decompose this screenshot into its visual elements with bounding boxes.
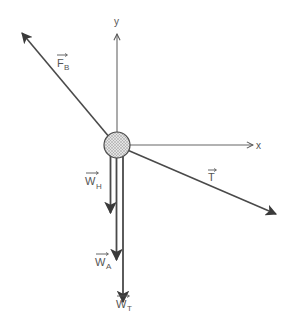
label-weight-t: W T <box>116 295 132 314</box>
label-weight-a: W A <box>95 253 112 272</box>
label-weight-h: W H <box>85 172 102 192</box>
free-body-diagram: y x F B T W H W <box>0 0 292 335</box>
wh-subscript: H <box>96 182 102 191</box>
wa-subscript: A <box>106 262 112 271</box>
wt-subscript: T <box>127 304 132 313</box>
body-circle <box>104 132 130 158</box>
label-tension: T <box>208 169 217 184</box>
wa-symbol: W <box>95 256 106 268</box>
vector-tension <box>125 149 276 214</box>
wt-symbol: W <box>116 298 127 310</box>
y-axis-label: y <box>114 16 119 27</box>
wh-symbol: W <box>85 175 96 187</box>
fb-symbol: F <box>57 57 64 69</box>
t-symbol: T <box>208 171 215 183</box>
vector-buoyant-force <box>22 33 110 138</box>
x-axis-label: x <box>256 140 261 151</box>
fb-subscript: B <box>64 63 69 72</box>
label-buoyant-force: F B <box>57 54 69 73</box>
